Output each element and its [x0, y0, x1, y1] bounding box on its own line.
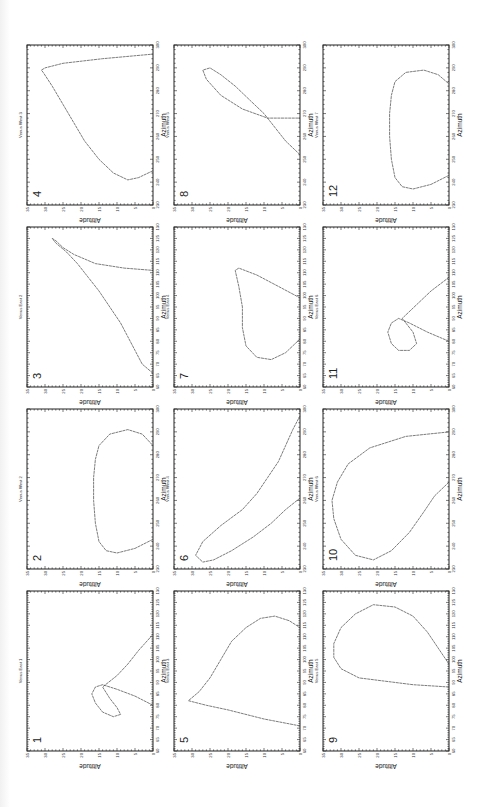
x-tick-label: 110 [155, 633, 160, 640]
x-tick-label: 110 [451, 269, 456, 276]
y-tick-label: 35 [321, 206, 326, 211]
y-tick-label: 35 [172, 570, 177, 575]
y-tick-label: 30 [43, 388, 48, 393]
plot-frame [174, 591, 300, 751]
x-tick-label: 70 [155, 361, 160, 366]
x-tick-label: 115 [302, 621, 307, 628]
y-axis-label: Altitude [226, 581, 248, 588]
plot-title: Venus East 5 [314, 658, 319, 683]
plot-frame [323, 591, 449, 751]
x-tick-label: 250 [155, 519, 160, 527]
y-tick-label: 10 [115, 206, 120, 211]
y-axis-label: Altitude [79, 399, 101, 406]
x-tick-label: 250 [302, 519, 307, 527]
y-tick-label: 35 [25, 752, 30, 757]
x-tick-label: 115 [302, 257, 307, 264]
y-tick-label: 15 [393, 388, 398, 393]
x-tick-label: 240 [451, 542, 456, 550]
x-tick-label: 70 [155, 725, 160, 730]
y-tick-label: 15 [393, 752, 398, 757]
x-tick-label: 250 [155, 155, 160, 163]
y-tick-label: 20 [226, 388, 231, 393]
y-tick-label: 35 [172, 752, 177, 757]
y-tick-label: 30 [190, 570, 195, 575]
y-tick-label: 0 [298, 206, 303, 209]
x-tick-label: 280 [451, 87, 456, 95]
panel-number: 5 [178, 737, 190, 743]
y-axis-label: Altitude [375, 399, 397, 406]
y-tick-label: 35 [25, 388, 30, 393]
y-tick-label: 0 [151, 206, 156, 209]
x-tick-label: 65 [302, 737, 307, 742]
x-tick-label: 125 [302, 598, 307, 606]
plot-panel-5: 6065707580859095100105110115120125130051… [174, 591, 334, 717]
y-tick-label: 0 [298, 752, 303, 755]
y-tick-label: 10 [115, 752, 120, 757]
plot-frame [27, 409, 153, 569]
y-tick-label: 10 [115, 388, 120, 393]
y-tick-label: 20 [375, 570, 380, 575]
x-tick-label: 65 [155, 373, 160, 378]
y-axis-label: Altitude [226, 399, 248, 406]
x-tick-label: 290 [155, 428, 160, 436]
x-tick-label: 65 [451, 373, 456, 378]
venus-path-curve [41, 54, 153, 180]
plot-panel-4: 23024025026027028029030005101520253035Az… [27, 45, 187, 171]
x-tick-label: 125 [451, 598, 456, 606]
y-tick-label: 30 [43, 570, 48, 575]
y-tick-label: 30 [339, 752, 344, 757]
plot-panel-7: 6065707580859095100105110115120125130051… [174, 227, 334, 353]
panel-number: 10 [327, 549, 339, 561]
plot-title: Venus East 4 [165, 294, 170, 319]
x-axis-label: Azimuth [307, 477, 314, 501]
x-tick-label: 290 [155, 64, 160, 72]
x-tick-label: 105 [302, 280, 307, 288]
x-tick-label: 85 [302, 327, 307, 332]
rotated-plot-6: 23024025026027028029030005101520253035Az… [174, 409, 300, 569]
y-tick-label: 15 [244, 752, 249, 757]
plot-panel-1: 6065707580859095100105110115120125130051… [27, 591, 187, 717]
x-tick-label: 125 [451, 234, 456, 242]
plot-panel-2: 23024025026027028029030005101520253035Az… [27, 409, 187, 535]
x-tick-label: 230 [155, 201, 160, 209]
x-tick-label: 70 [302, 725, 307, 730]
venus-path-curve [334, 605, 449, 687]
plot-title: Venus West 6 [314, 475, 319, 501]
x-tick-label: 120 [302, 610, 307, 618]
plot-frame [174, 45, 300, 205]
plot-title: Venus West 5 [165, 111, 170, 137]
venus-path-curve [235, 268, 300, 360]
plot-panel-12: 23024025026027028029030005101520253035Az… [323, 45, 483, 171]
y-tick-label: 10 [411, 570, 416, 575]
x-tick-label: 130 [155, 587, 160, 595]
x-tick-label: 115 [155, 257, 160, 264]
x-tick-label: 105 [155, 280, 160, 288]
y-tick-label: 15 [393, 206, 398, 211]
x-tick-label: 130 [451, 587, 456, 595]
plot-frame [27, 591, 153, 751]
x-tick-label: 280 [155, 87, 160, 95]
rotated-plot-2: 23024025026027028029030005101520253035Az… [27, 409, 153, 569]
x-tick-label: 240 [302, 178, 307, 186]
x-tick-label: 290 [302, 64, 307, 72]
x-tick-label: 250 [302, 155, 307, 163]
x-axis-label: Azimuth [456, 659, 463, 683]
y-tick-label: 20 [375, 388, 380, 393]
venus-path-curve [196, 416, 300, 562]
panel-number: 3 [31, 373, 43, 379]
y-tick-label: 25 [357, 206, 362, 211]
y-tick-label: 5 [280, 206, 285, 209]
panel-number: 8 [178, 191, 190, 197]
venus-path-curve [52, 238, 153, 373]
x-tick-label: 60 [302, 748, 307, 753]
x-tick-label: 70 [451, 361, 456, 366]
x-tick-label: 110 [302, 633, 307, 640]
x-tick-label: 300 [302, 41, 307, 49]
y-tick-label: 5 [133, 570, 138, 573]
y-tick-label: 25 [61, 752, 66, 757]
y-tick-label: 20 [79, 388, 84, 393]
x-tick-label: 75 [155, 714, 160, 719]
x-tick-label: 290 [451, 64, 456, 72]
y-axis-label: Altitude [375, 217, 397, 224]
plot-panel-3: 6065707580859095100105110115120125130051… [27, 227, 187, 353]
